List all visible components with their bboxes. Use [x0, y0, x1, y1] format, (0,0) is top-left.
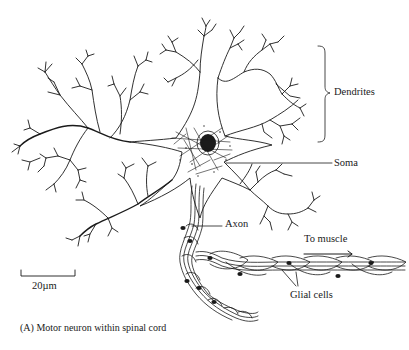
- soma-label: Soma: [334, 158, 358, 169]
- axon-label: Axon: [225, 219, 248, 230]
- figure-caption: (A) Motor neuron within spinal cord: [20, 323, 166, 333]
- soma: [130, 72, 272, 218]
- label-leaders: [21, 46, 352, 286]
- motor-neuron-figure: Dendrites Soma Axon To muscle Glial cell…: [0, 0, 409, 350]
- dendrites-brace: [318, 46, 330, 142]
- to-muscle-label: To muscle: [304, 234, 347, 245]
- neuron-drawing: [0, 0, 409, 350]
- glial-cells-label: Glial cells: [290, 290, 333, 301]
- glial-leader-2: [296, 272, 298, 286]
- scale-bar: [21, 270, 75, 276]
- dendrites: [12, 18, 320, 246]
- dendrites-label: Dendrites: [334, 87, 375, 98]
- scale-bar-label: 20µm: [32, 281, 57, 292]
- glial-leader-1: [282, 270, 296, 286]
